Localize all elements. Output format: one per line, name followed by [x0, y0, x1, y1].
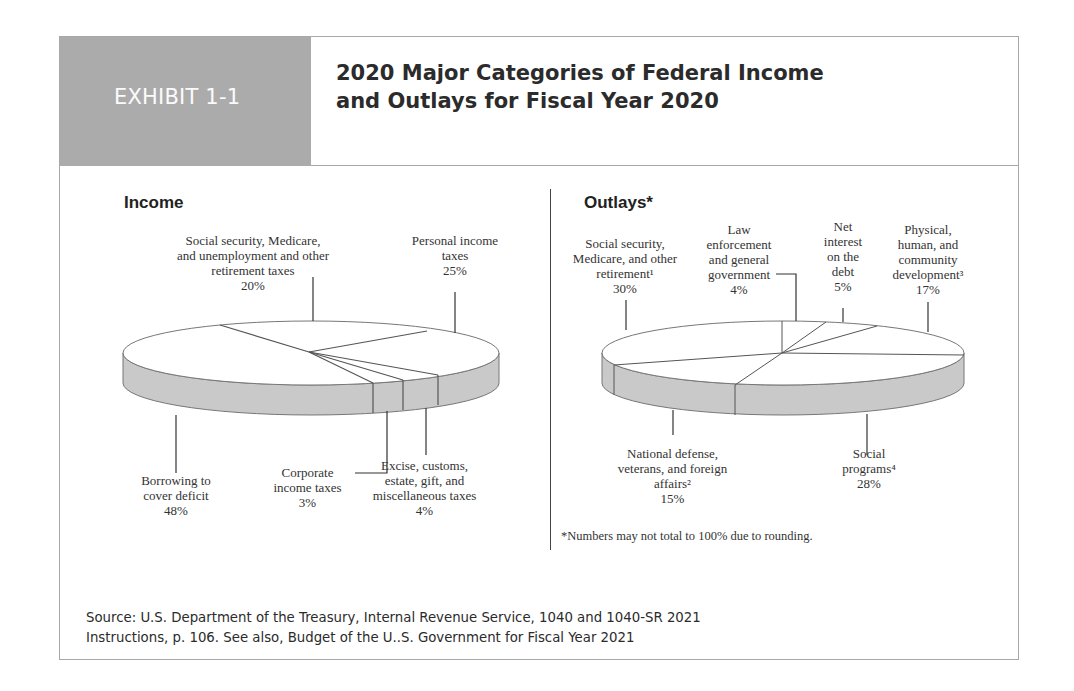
outlays-label-law-enforcement: Law enforcement and general government 4…	[694, 222, 784, 297]
source-citation: Source: U.S. Department of the Treasury,…	[86, 608, 701, 648]
outlays-label-physical-human: Physical, human, and community developme…	[882, 222, 974, 297]
outlays-label-net-interest: Net interest on the debt 5%	[810, 219, 876, 294]
outlays-label-national-defense: National defense, veterans, and foreign …	[605, 446, 740, 506]
outlays-label-social-security: Social security, Medicare, and other ret…	[560, 236, 690, 296]
outlays-label-social-programs: Social programs⁴ 28%	[824, 446, 914, 491]
exhibit-card: EXHIBIT 1-1 2020 Major Categories of Fed…	[59, 36, 1019, 660]
outlays-footnote: *Numbers may not total to 100% due to ro…	[561, 529, 813, 544]
